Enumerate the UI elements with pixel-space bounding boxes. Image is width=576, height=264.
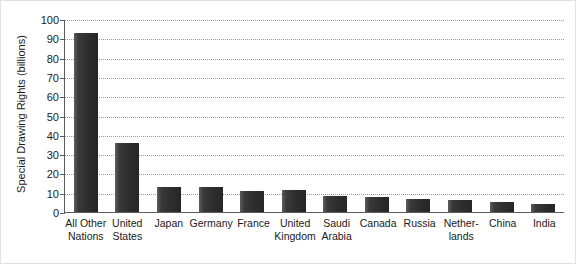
x-tick-label: Canada (357, 217, 399, 242)
bar (531, 204, 555, 212)
bar-slot (107, 20, 149, 212)
y-tick-label: 80 (33, 53, 59, 65)
y-tick-label: 40 (33, 130, 59, 142)
x-axis-category-labels: All OtherNationsUnitedStatesJapanGermany… (65, 217, 565, 242)
bar-slot (148, 20, 190, 212)
x-tick-label: China (482, 217, 524, 242)
bar-slot (481, 20, 523, 212)
bar (365, 197, 389, 212)
x-tick-label-line: Kingdom (274, 230, 316, 243)
x-tick-label: France (233, 217, 275, 242)
bar (74, 33, 98, 212)
x-tick-label: Russia (399, 217, 441, 242)
x-tick-label: Germany (190, 217, 233, 242)
y-tick-label: 0 (33, 207, 59, 219)
x-tick-label: SaudiArabia (316, 217, 358, 242)
bar (490, 202, 514, 212)
x-tick-label-line: United (107, 217, 149, 230)
x-tick-label-line: Russia (399, 217, 441, 230)
y-axis-tick-labels: 1009080706050403020100 (29, 1, 59, 264)
x-tick-label-line: Germany (190, 217, 233, 230)
y-tick-label: 20 (33, 168, 59, 180)
bar-slot (314, 20, 356, 212)
x-tick-label-line: Saudi (316, 217, 358, 230)
bar (157, 187, 181, 212)
x-tick-label-line: Nations (65, 230, 107, 243)
x-tick-label: India (524, 217, 566, 242)
x-tick-label-line: France (233, 217, 275, 230)
bar (240, 191, 264, 212)
x-tick-label-line: Arabia (316, 230, 358, 243)
chart-figure: Special Drawing Rights (billions) 100908… (0, 0, 576, 264)
x-tick-label: UnitedStates (107, 217, 149, 242)
x-tick-label-line: India (524, 217, 566, 230)
bar (115, 143, 139, 212)
bar (448, 200, 472, 212)
bar (282, 190, 306, 212)
bar-slot (398, 20, 440, 212)
x-tick-label-line: lands (440, 230, 482, 243)
x-tick-label-line: China (482, 217, 524, 230)
x-tick-label-line: Nether- (440, 217, 482, 230)
bar-slot (356, 20, 398, 212)
y-tick-label: 100 (33, 14, 59, 26)
x-tick-label-line: United (274, 217, 316, 230)
y-tick-label: 60 (33, 91, 59, 103)
bar-slot (190, 20, 232, 212)
y-tick-label: 50 (33, 111, 59, 123)
bar-slot (65, 20, 107, 212)
x-tick-label: Nether-lands (440, 217, 482, 242)
y-tickmark (60, 213, 65, 214)
x-tick-label: UnitedKingdom (274, 217, 316, 242)
x-tick-label-line: Japan (148, 217, 190, 230)
y-tick-label: 30 (33, 149, 59, 161)
bar-series (65, 20, 564, 212)
bar (406, 199, 430, 213)
x-axis-line (64, 212, 564, 213)
x-tick-label-line: Canada (357, 217, 399, 230)
y-tick-label: 10 (33, 188, 59, 200)
x-tick-label-line: States (107, 230, 149, 243)
bar-slot (231, 20, 273, 212)
x-tick-label: Japan (148, 217, 190, 242)
bar-slot (439, 20, 481, 212)
x-tick-label: All OtherNations (65, 217, 107, 242)
x-tick-label-line: All Other (65, 217, 107, 230)
bar-slot (522, 20, 564, 212)
y-tick-label: 90 (33, 33, 59, 45)
y-tick-label: 70 (33, 72, 59, 84)
bar (199, 187, 223, 212)
bar-slot (273, 20, 315, 212)
bar (323, 196, 347, 212)
plot-area (64, 20, 564, 213)
